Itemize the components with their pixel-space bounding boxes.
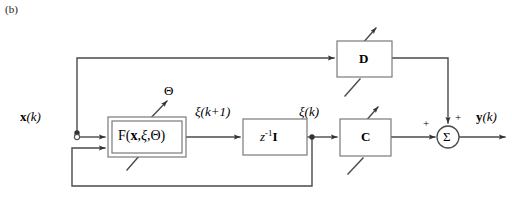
f-block-arg-theta: Θ xyxy=(150,128,160,143)
delay-block-matrix: I xyxy=(272,129,277,144)
f-block-label: F(x,ξ,Θ) xyxy=(118,129,165,143)
output-signal-arg: (k) xyxy=(483,109,497,124)
input-signal-label: x(k) xyxy=(20,110,41,123)
state-junction-dot xyxy=(309,134,314,139)
input-terminal-circle xyxy=(74,134,79,139)
state-signal-text: ξ(k) xyxy=(299,104,319,119)
sum-node-label: Σ xyxy=(443,130,451,143)
delay-block-label: z-1I xyxy=(260,129,277,143)
parameter-label: Θ xyxy=(164,84,173,97)
d-block-label: D xyxy=(359,52,368,65)
tick-d-lower xyxy=(345,79,360,96)
wire-d-to-sum xyxy=(392,58,448,123)
input-signal-arg: (k) xyxy=(27,109,41,124)
f-block-fn-name: F xyxy=(118,128,126,143)
tick-c-lower xyxy=(348,158,363,174)
sum-sign-left: + xyxy=(423,118,429,129)
state-next-signal-text: ξ(k+1) xyxy=(195,104,230,119)
sum-sign-top: + xyxy=(455,112,461,123)
state-next-signal-label: ξ(k+1) xyxy=(195,105,230,118)
output-signal-label: y(k) xyxy=(476,110,497,123)
c-block-label: C xyxy=(361,130,370,143)
block-diagram-figure: (b) x(k) Θ F(x,ξ,Θ) ξ(k+1) z-1I ξ(k) C D… xyxy=(0,0,512,203)
figure-caption: (b) xyxy=(5,4,18,15)
diagram-canvas xyxy=(0,0,512,203)
f-block-close-paren: ) xyxy=(161,128,166,143)
state-signal-label: ξ(k) xyxy=(299,105,319,118)
